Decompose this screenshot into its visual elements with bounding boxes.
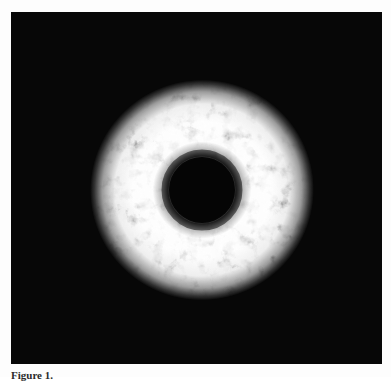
figure-caption: Figure 1. [11,369,371,382]
figure-image-panel [11,12,382,364]
figure-caption-label: Figure 1. [11,369,53,381]
annulus-tomography-image [11,12,382,364]
